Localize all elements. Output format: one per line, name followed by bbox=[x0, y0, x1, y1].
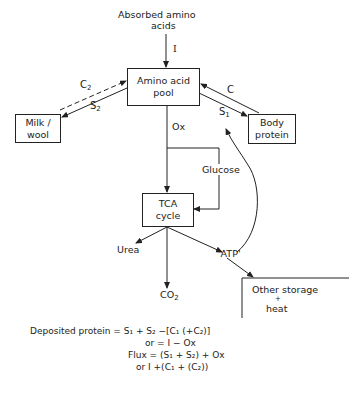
node-co2: CO2 bbox=[160, 289, 179, 300]
edge-label-S1: S1 bbox=[219, 106, 230, 117]
milk-label-line1: Milk / bbox=[25, 117, 50, 129]
edge-label-S2: S2 bbox=[90, 100, 101, 111]
edge-label-C2: C2 bbox=[80, 79, 91, 90]
tca-label-line2: cycle bbox=[156, 210, 181, 222]
edge-label-I: I bbox=[173, 43, 177, 54]
node-urea: Urea bbox=[117, 244, 139, 255]
absorbed-label-line1: Absorbed amino bbox=[118, 9, 196, 20]
edge-label-glucose: Glucose bbox=[201, 164, 241, 175]
tca-label-line1: TCA bbox=[156, 198, 181, 210]
body-label-line1: Body bbox=[255, 117, 289, 129]
absorbed-label-line2: acids bbox=[151, 20, 176, 31]
edge-label-Ox: Ox bbox=[172, 121, 185, 132]
storage-label-line3: heat bbox=[266, 303, 287, 314]
arrow-atp bbox=[167, 227, 222, 252]
arrow-storage bbox=[227, 258, 253, 277]
pool-label-line1: Amino acid bbox=[137, 75, 190, 87]
node-tca-cycle[interactable]: TCA cycle bbox=[142, 193, 194, 227]
arrow-atp-to-s1 bbox=[226, 129, 257, 252]
node-atp: 'ATP' bbox=[218, 248, 241, 259]
node-amino-acid-pool[interactable]: Amino acid pool bbox=[127, 68, 200, 106]
pool-label-line2: pool bbox=[137, 87, 190, 99]
storage-label-line1: Other storage bbox=[252, 284, 318, 295]
node-body-protein[interactable]: Body protein bbox=[248, 114, 296, 144]
milk-label-line2: wool bbox=[25, 129, 50, 141]
equation-deposited-alt: or = I − Ox bbox=[145, 338, 196, 349]
equation-flux: Flux = (S₁ + S₂) + Ox bbox=[128, 350, 225, 361]
node-milk-wool[interactable]: Milk / wool bbox=[15, 114, 61, 143]
equation-deposited-protein: Deposited protein = S₁ + S₂ −[C₁ (+C₂)] bbox=[30, 326, 210, 337]
edge-label-C: C bbox=[227, 84, 234, 95]
body-label-line2: protein bbox=[255, 129, 289, 141]
equation-flux-alt: or I +(C₁ + (C₂)) bbox=[136, 362, 208, 373]
arrow-urea bbox=[136, 227, 167, 243]
